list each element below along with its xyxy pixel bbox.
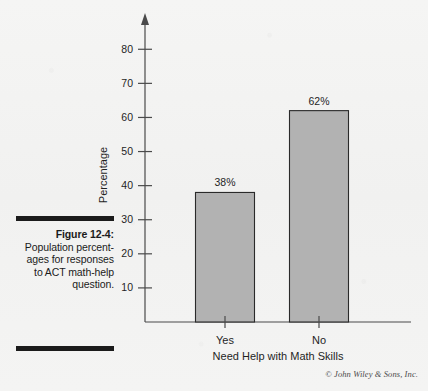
bar-value-label: 38% — [214, 176, 235, 188]
x-category-label: Yes — [216, 334, 234, 346]
y-tick-label: 10 — [121, 281, 133, 293]
y-tick-label: 40 — [121, 179, 133, 191]
y-axis-ticks: 1020304050607080 — [121, 43, 152, 294]
bar — [290, 111, 349, 322]
bar — [196, 192, 255, 322]
y-tick-label: 20 — [121, 247, 133, 259]
y-tick-label: 60 — [121, 111, 133, 123]
x-axis-category-labels: YesNo — [216, 334, 326, 346]
y-axis-arrow-icon — [141, 13, 149, 25]
y-axis — [141, 13, 149, 322]
y-tick-label: 80 — [121, 43, 133, 55]
y-tick-label: 50 — [121, 145, 133, 157]
bar-value-label: 62% — [308, 95, 329, 107]
x-axis-title: Need Help with Math Skills — [213, 350, 344, 362]
bar-chart: 1020304050607080 YesNo 38%62% Need Help … — [0, 0, 428, 391]
bar-series — [196, 111, 349, 322]
y-tick-label: 30 — [121, 213, 133, 225]
x-category-label: No — [312, 334, 326, 346]
y-tick-label: 70 — [121, 77, 133, 89]
copyright-notice: © John Wiley & Sons, Inc. — [325, 369, 418, 379]
y-axis-title: Percentage — [97, 147, 109, 203]
